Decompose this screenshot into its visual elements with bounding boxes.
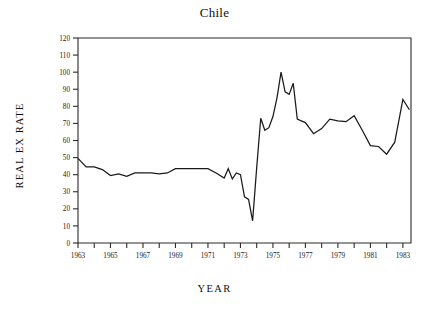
y-tick-label: 0 (66, 240, 70, 248)
x-tick-label: 1977 (298, 252, 313, 260)
x-tick-label: 1975 (266, 252, 281, 260)
plot-area: 0102030405060708090100110120 19631965196… (0, 0, 429, 312)
x-tick-label: 1967 (136, 252, 151, 260)
y-tick-label: 30 (63, 188, 71, 196)
x-axis-ticks: 1963196519671969197119731975197719791981… (71, 243, 411, 260)
x-tick-label: 1969 (168, 252, 183, 260)
x-tick-label: 1965 (103, 252, 118, 260)
chart-figure: Chile REAL EX RATE YEAR 0102030405060708… (0, 0, 429, 312)
y-tick-label: 90 (63, 86, 71, 94)
x-tick-label: 1981 (363, 252, 378, 260)
y-tick-label: 120 (59, 35, 70, 43)
data-series-layer (78, 72, 409, 221)
data-line (78, 72, 409, 221)
y-tick-label: 110 (59, 52, 70, 60)
axis-frame (78, 38, 411, 243)
y-tick-label: 40 (63, 171, 71, 179)
y-axis-ticks: 0102030405060708090100110120 (59, 35, 78, 248)
y-tick-label: 60 (63, 137, 71, 145)
y-tick-label: 20 (63, 205, 71, 213)
x-tick-label: 1973 (233, 252, 248, 260)
y-tick-label: 10 (63, 223, 71, 231)
y-tick-label: 80 (63, 103, 71, 111)
x-tick-label: 1963 (71, 252, 86, 260)
x-tick-label: 1979 (331, 252, 346, 260)
y-tick-label: 50 (63, 154, 71, 162)
x-tick-label: 1983 (396, 252, 411, 260)
y-tick-label: 100 (59, 69, 70, 77)
x-tick-label: 1971 (201, 252, 216, 260)
y-tick-label: 70 (63, 120, 71, 128)
